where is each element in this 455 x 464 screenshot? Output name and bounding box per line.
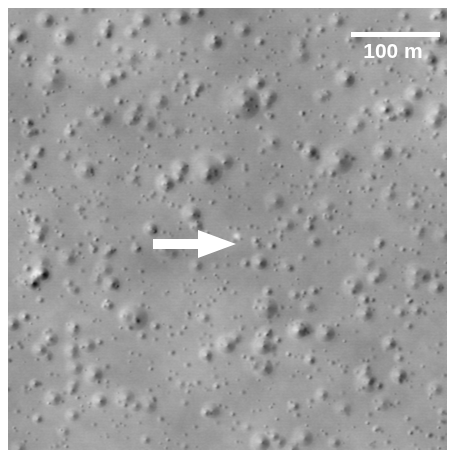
lunar-surface-figure: 100 m (0, 0, 455, 464)
lunar-surface-image-panel: 100 m (8, 8, 447, 450)
lunar-surface-canvas (8, 8, 447, 450)
